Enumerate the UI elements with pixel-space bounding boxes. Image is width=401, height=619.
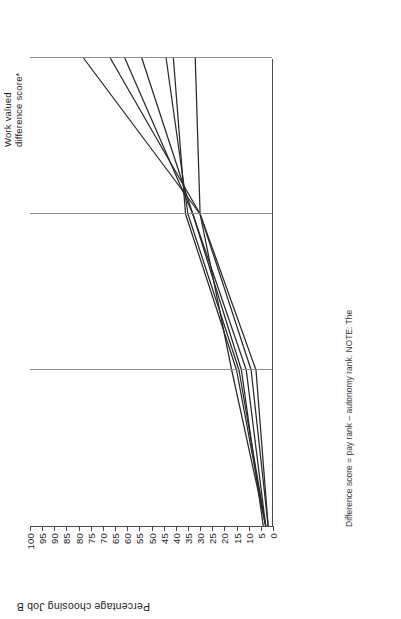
- y-axis-tick-label: 85: [61, 533, 72, 544]
- y-axis-tick: [30, 526, 31, 531]
- y-axis-tick: [66, 526, 67, 531]
- y-axis-tick: [237, 526, 238, 531]
- legend-title: Work valued difference score*: [2, 72, 24, 147]
- y-axis-tick-label: 55: [134, 533, 145, 544]
- y-axis-tick: [224, 526, 225, 531]
- y-axis-tick-label: 10: [243, 533, 254, 544]
- y-axis-tick-label: 50: [146, 533, 157, 544]
- y-axis-tick-label: 15: [231, 533, 242, 544]
- y-axis-tick: [115, 526, 116, 531]
- y-axis-tick-label: 0: [268, 533, 279, 538]
- y-axis-tick: [79, 526, 80, 531]
- vertical-gridline: [30, 369, 272, 370]
- y-axis-tick-label: 60: [122, 533, 133, 544]
- y-axis-tick-label: 20: [219, 533, 230, 544]
- y-axis-tick: [91, 526, 92, 531]
- chart-figure: Percentage choosing Job B 05101520253035…: [0, 0, 401, 619]
- y-axis-tick-label: 70: [97, 533, 108, 544]
- y-axis-tick: [139, 526, 140, 531]
- y-axis-tick-label: 90: [49, 533, 60, 544]
- legend-title-line1: Work valued: [2, 72, 13, 147]
- y-axis-tick-label: 45: [158, 533, 169, 544]
- y-axis-tick: [249, 526, 250, 531]
- series-lines: [30, 58, 273, 526]
- y-axis-tick: [42, 526, 43, 531]
- y-axis-tick: [127, 526, 128, 531]
- y-axis-tick-label: 75: [85, 533, 96, 544]
- y-axis-tick-label: 25: [207, 533, 218, 544]
- y-axis-tick: [152, 526, 153, 531]
- plot-area: 0510152025303540455055606570758085909510…: [30, 59, 273, 527]
- y-axis-tick-label: 65: [110, 533, 121, 544]
- y-axis-tick-label: 95: [37, 533, 48, 544]
- vertical-gridline: [30, 213, 272, 214]
- y-axis-tick-label: 35: [182, 533, 193, 544]
- chart-footnote: Difference score = pay rank – autonomy r…: [344, 310, 354, 527]
- y-axis-tick-label: 40: [170, 533, 181, 544]
- legend-title-line2: difference score*: [13, 72, 24, 147]
- y-axis-tick: [212, 526, 213, 531]
- y-axis-tick: [200, 526, 201, 531]
- series-line: [195, 58, 265, 526]
- series-line: [142, 58, 264, 526]
- vertical-gridline: [30, 57, 272, 58]
- rotated-figure-wrapper: Percentage choosing Job B 05101520253035…: [0, 0, 401, 619]
- y-axis-tick: [261, 526, 262, 531]
- y-axis-tick: [103, 526, 104, 531]
- y-axis-tick: [164, 526, 165, 531]
- y-axis-tick-label: 100: [25, 533, 36, 549]
- y-axis-tick-label: 30: [195, 533, 206, 544]
- y-axis-tick: [188, 526, 189, 531]
- series-line: [125, 58, 266, 526]
- y-axis-title: Percentage choosing Job B: [17, 601, 150, 613]
- y-axis-tick: [176, 526, 177, 531]
- y-axis-tick: [273, 526, 274, 531]
- y-axis-tick: [54, 526, 55, 531]
- series-line: [110, 58, 268, 526]
- y-axis-tick-label: 80: [73, 533, 84, 544]
- y-axis-tick-label: 5: [255, 533, 266, 538]
